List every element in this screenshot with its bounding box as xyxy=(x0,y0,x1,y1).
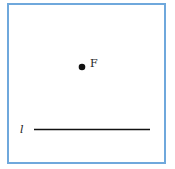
focus-label: F xyxy=(90,57,98,70)
diagram-canvas: F l xyxy=(0,0,175,169)
focus-point xyxy=(79,64,86,71)
directrix-label: l xyxy=(20,123,24,136)
